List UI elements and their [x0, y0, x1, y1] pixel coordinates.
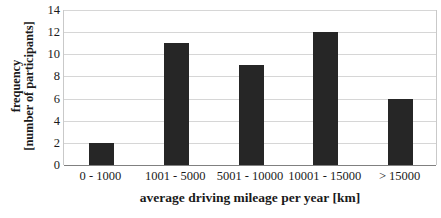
x-axis-tick-label: > 15000 [379, 168, 420, 184]
x-axis-tick-labels: 0 - 10001001 - 50005001 - 1000010001 - 1… [63, 168, 437, 184]
bar [89, 143, 114, 165]
x-axis-tick-label: 10001 - 15000 [288, 168, 361, 184]
bar [164, 43, 189, 165]
y-axis-tick-label: 14 [48, 4, 61, 17]
y-axis-tick-label: 6 [54, 92, 60, 105]
y-axis-tick-label: 0 [54, 159, 60, 172]
x-axis-baseline [64, 165, 436, 166]
y-axis-tick-labels: 14121086420 [30, 10, 60, 165]
y-axis-tick-label: 4 [54, 114, 60, 127]
x-axis-title: average driving mileage per year [km] [63, 190, 437, 206]
bar [313, 32, 338, 165]
y-axis-tick-label: 10 [48, 48, 61, 61]
y-axis-tick-label: 12 [48, 26, 61, 39]
bar-chart: frequency [number of participants] 14121… [0, 0, 441, 218]
x-axis-tick-label: 1001 - 5000 [145, 168, 205, 184]
bar [388, 99, 413, 165]
y-axis-tick-label: 8 [54, 70, 60, 83]
bars-layer [64, 10, 436, 165]
plot-area [63, 10, 437, 165]
x-axis-tick-label: 0 - 1000 [80, 168, 122, 184]
bar [239, 65, 264, 165]
y-axis-tick-label: 2 [54, 137, 60, 150]
x-axis-tick-label: 5001 - 10000 [217, 168, 284, 184]
